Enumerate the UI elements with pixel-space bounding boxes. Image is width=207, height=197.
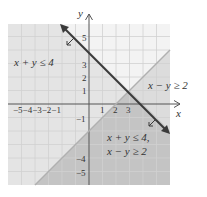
y-tick-1: 1 bbox=[82, 86, 87, 96]
x-tick-2: 2 bbox=[113, 105, 118, 115]
y-tick-3: 3 bbox=[82, 60, 87, 70]
label-x-plus-y-le-4: x + y ≤ 4 bbox=[13, 56, 54, 68]
label-x-minus-y-ge-2: x − y ≥ 2 bbox=[147, 79, 188, 91]
inequality-graph: x y −5−4−3−2−1 1 2 3 5 3 2 1 −1 −4 −5 x … bbox=[0, 0, 207, 197]
y-tick-minus-4: −4 bbox=[76, 154, 86, 164]
x-tick-1: 1 bbox=[100, 105, 105, 115]
y-axis-label: y bbox=[77, 7, 83, 19]
x-tick-3: 3 bbox=[126, 105, 131, 115]
y-tick-minus-1: −1 bbox=[76, 114, 86, 124]
label-overlap-line2: x − y ≥ 2 bbox=[106, 145, 147, 157]
y-tick-minus-5: −5 bbox=[76, 168, 86, 178]
x-ticks-negative: −5−4−3−2−1 bbox=[13, 105, 61, 115]
y-tick-2: 2 bbox=[82, 73, 87, 83]
label-overlap-line1: x + y ≤ 4, bbox=[106, 131, 150, 143]
x-axis-label: x bbox=[175, 107, 181, 119]
y-tick-5: 5 bbox=[82, 33, 87, 43]
